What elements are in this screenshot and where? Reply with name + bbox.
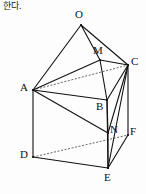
- vertex-label-c: C: [131, 56, 138, 67]
- solid-edges-group: [33, 25, 128, 168]
- vertex-label-n: N: [110, 124, 118, 135]
- edge-MB: [100, 60, 107, 100]
- vertex-point-c: [127, 64, 129, 66]
- edge-DE: [33, 157, 108, 168]
- vertex-label-m: M: [93, 45, 103, 56]
- edge-OC: [81, 25, 128, 65]
- vertex-label-f: F: [130, 126, 136, 137]
- vertex-label-d: D: [20, 149, 28, 160]
- vertex-point-b: [106, 99, 108, 101]
- vertex-point-e: [107, 167, 109, 169]
- vertex-label-b: B: [96, 101, 103, 112]
- vertex-point-f: [127, 134, 129, 136]
- vertex-point-m: [99, 59, 101, 61]
- edge-OA: [33, 25, 81, 90]
- vertex-label-e: E: [104, 172, 111, 183]
- vertex-point-a: [32, 89, 34, 91]
- vertex-label-o: O: [75, 9, 83, 20]
- vertex-point-o: [80, 24, 82, 26]
- geometry-figure: [0, 0, 146, 194]
- vertex-point-n: [107, 132, 109, 134]
- edge-AB: [33, 90, 107, 100]
- dashed-edges-group: [33, 65, 128, 157]
- vertex-label-a: A: [20, 82, 28, 93]
- figure-page: 을 한다. OMCABNFDE: [0, 0, 146, 194]
- vertex-point-d: [32, 156, 34, 158]
